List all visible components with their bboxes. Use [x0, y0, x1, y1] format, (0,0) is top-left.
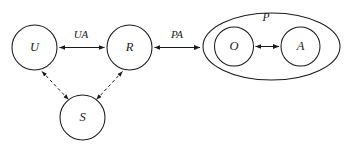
node-a-label: A: [296, 39, 305, 53]
edge-label-ua: UA: [74, 28, 89, 40]
group-p-label: P: [261, 11, 269, 23]
node-o[interactable]: O: [215, 27, 254, 66]
group-p-permissions[interactable]: P: [203, 11, 340, 80]
node-u[interactable]: U: [12, 25, 57, 70]
rbac-relationship-diagram: P U R S O A UA PA: [0, 0, 346, 144]
edge-label-pa: PA: [170, 28, 183, 40]
node-o-label: O: [229, 39, 238, 53]
node-u-label: U: [30, 40, 40, 54]
node-r[interactable]: R: [107, 25, 152, 70]
diagram-canvas: P U R S O A UA PA: [0, 0, 346, 144]
node-s-label: S: [79, 110, 86, 124]
node-a[interactable]: A: [281, 27, 320, 66]
edge-session-role-dashed: [97, 72, 123, 100]
node-r-label: R: [125, 40, 134, 54]
edge-user-session-dashed: [42, 72, 69, 100]
node-s[interactable]: S: [60, 95, 105, 140]
